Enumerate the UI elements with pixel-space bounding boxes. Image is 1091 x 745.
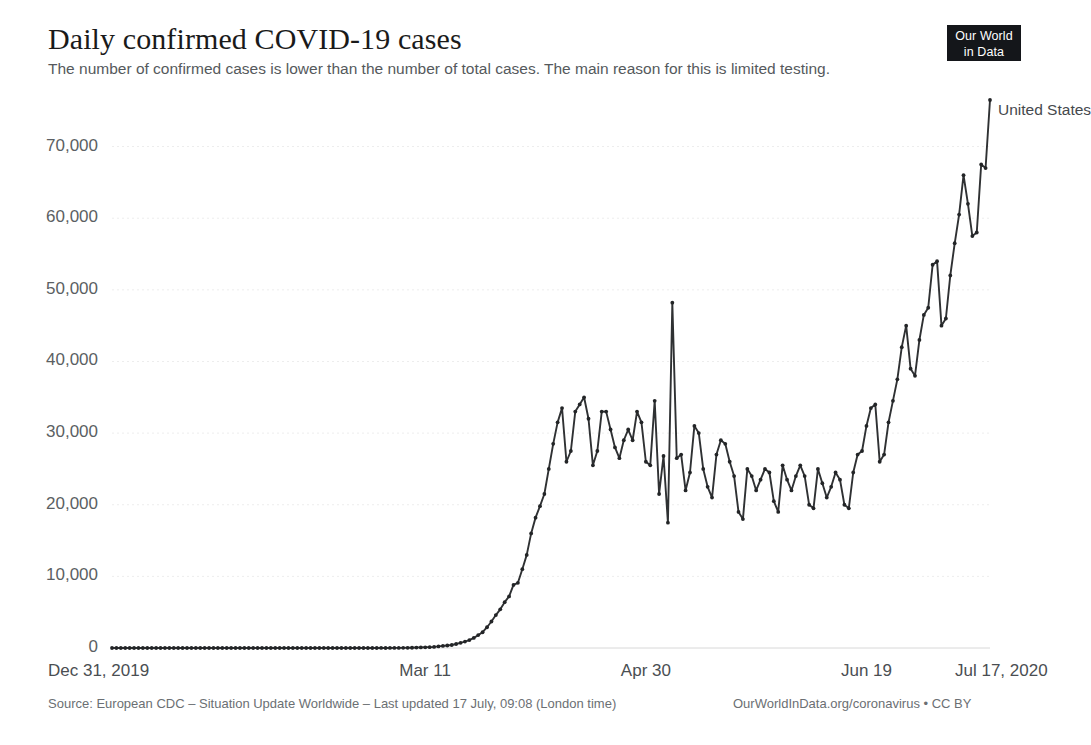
data-point [123,646,127,650]
data-point [542,492,546,496]
footer-credit[interactable]: OurWorldInData.org/coronavirus • CC BY [733,696,971,711]
y-axis-tick-label: 70,000 [0,136,98,156]
data-point [931,263,935,267]
data-point [948,274,952,278]
data-point [635,410,639,414]
data-point [203,646,207,650]
data-point [119,646,123,650]
data-point [988,98,992,102]
data-point [860,449,864,453]
data-point [419,645,423,649]
y-axis-tick-label: 10,000 [0,565,98,585]
data-point [163,646,167,650]
data-point [966,202,970,206]
data-point [145,646,149,650]
data-point [891,399,895,403]
data-point [679,453,683,457]
data-point [278,646,282,650]
data-point [595,449,599,453]
data-point [675,456,679,460]
data-point [640,420,644,424]
data-point [234,646,238,650]
data-point [944,317,948,321]
data-point [684,489,688,493]
data-point [512,583,516,587]
data-point [181,646,185,650]
data-point [838,478,842,482]
series-label-united-states: United States [998,101,1091,119]
data-point [357,646,361,650]
data-point [670,301,674,305]
data-point [573,410,577,414]
data-point [723,442,727,446]
data-point [485,625,489,629]
data-point [137,646,141,650]
data-point [829,485,833,489]
data-point [154,646,158,650]
data-point [300,646,304,650]
data-point [198,646,202,650]
data-point [406,646,410,650]
data-point [688,471,692,475]
data-point [565,460,569,464]
data-point [476,633,480,637]
data-point [631,438,635,442]
data-point [110,646,114,650]
data-point [379,646,383,650]
data-point [322,646,326,650]
series-line-united-states [112,100,990,648]
data-point [423,645,427,649]
data-point [150,646,154,650]
data-point [750,474,754,478]
data-point [551,442,555,446]
data-point [975,231,979,235]
data-point [534,516,538,520]
data-point [913,374,917,378]
data-point [582,395,586,399]
data-point [172,646,176,650]
data-point [569,449,573,453]
data-point [291,646,295,650]
data-point [662,454,666,458]
data-point [335,646,339,650]
data-point [759,478,763,482]
data-point [772,499,776,503]
data-point [128,646,132,650]
data-point [441,644,445,648]
data-point [265,646,269,650]
data-point [922,313,926,317]
data-point [798,463,802,467]
data-point [962,173,966,177]
data-point [313,646,317,650]
data-point [692,424,696,428]
data-point [432,645,436,649]
data-point [326,646,330,650]
data-point [247,646,251,650]
data-point [825,496,829,500]
data-point [538,504,542,508]
data-point [807,503,811,507]
data-point [331,646,335,650]
data-point [190,646,194,650]
data-point [613,446,617,450]
data-point [882,453,886,457]
data-point [392,646,396,650]
data-point [472,636,476,640]
data-point [851,471,855,475]
owid-logo-line1: Our World [947,28,1021,44]
data-point [794,474,798,478]
data-point [242,646,246,650]
data-point [587,417,591,421]
data-point [666,521,670,525]
data-point [384,646,388,650]
data-point [375,646,379,650]
x-axis-tick-label: Dec 31, 2019 [48,661,149,681]
data-point [904,324,908,328]
data-point [812,506,816,510]
owid-logo[interactable]: Our World in Data [947,25,1021,61]
data-point [556,420,560,424]
data-point [481,630,485,634]
data-point [450,643,454,647]
y-axis-tick-label: 0 [0,637,98,657]
data-point [397,646,401,650]
